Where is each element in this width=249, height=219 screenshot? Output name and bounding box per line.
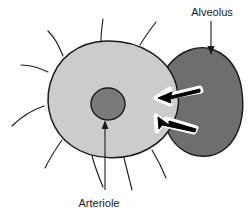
- fiber-bottom-right: [124, 158, 132, 190]
- alveolus-label: Alveolus: [191, 6, 233, 18]
- fiber-right-lower: [152, 150, 166, 178]
- fiber-top-left: [48, 31, 63, 56]
- arteriole-label: Arteriole: [79, 197, 120, 209]
- fiber-left-mid: [12, 106, 44, 126]
- fiber-left-lower: [45, 140, 62, 168]
- fiber-top-right: [140, 22, 156, 45]
- diagram-canvas: Alveolus Arteriole: [0, 0, 249, 219]
- anatomical-figure: Alveolus Arteriole: [0, 0, 249, 219]
- fiber-top-mid: [101, 19, 103, 41]
- arteriole-lumen: [91, 88, 125, 120]
- fiber-left-upper: [21, 65, 48, 72]
- fiber-bottom-mid: [92, 156, 103, 187]
